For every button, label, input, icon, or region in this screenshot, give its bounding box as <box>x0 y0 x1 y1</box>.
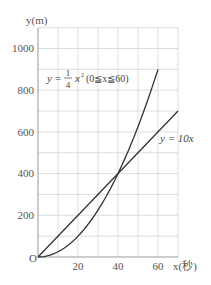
y-axis-label: y(m) <box>26 14 48 27</box>
y-tick-600: 600 <box>18 126 35 138</box>
eq-y: y <box>46 72 52 84</box>
eq-domain: (0≦x≦60) <box>86 73 129 85</box>
y-tick-800: 800 <box>18 84 35 96</box>
chart: 1000 800 600 400 200 20 40 60 O y(m) x(秒… <box>0 0 211 285</box>
x-tick-60: 60 <box>153 260 165 272</box>
line-10x <box>38 111 178 257</box>
x-tick-40: 40 <box>113 260 125 272</box>
eq-x: x <box>74 72 80 84</box>
eq-denominator: 4 <box>66 80 71 90</box>
y-tick-400: 400 <box>18 167 35 179</box>
line-equation: y = 10x <box>159 132 194 144</box>
origin-label: O <box>29 252 37 264</box>
y-tick-labels: 1000 800 600 400 200 <box>12 42 35 221</box>
x-axis-label: x(秒) <box>173 259 197 273</box>
y-tick-1000: 1000 <box>12 42 35 54</box>
x-tick-20: 20 <box>73 260 85 272</box>
eq-numerator: 1 <box>66 68 71 78</box>
grid <box>38 28 178 257</box>
y-tick-200: 200 <box>18 209 35 221</box>
eq-equals: = <box>55 72 61 84</box>
x-tick-labels: 20 40 60 <box>73 260 165 272</box>
parabola-equation: y = 1 4 x 2 (0≦x≦60) <box>46 68 129 90</box>
eq-exponent: 2 <box>81 72 84 78</box>
